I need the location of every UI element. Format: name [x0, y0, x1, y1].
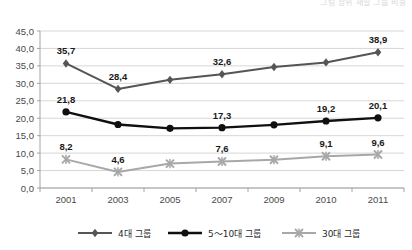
data-point-marker: [115, 85, 122, 93]
data-point-marker: [166, 125, 173, 132]
data-label: 7,6: [215, 143, 228, 154]
data-label: 4,6: [111, 154, 124, 165]
line-chart: 그림 상위 재벌 그룹 비중 0,05,010,015,020,025,030,…: [0, 0, 412, 250]
y-tick-label: 10,0: [16, 148, 35, 159]
data-point-marker: [374, 114, 381, 121]
data-label: 19,2: [317, 103, 336, 114]
chart-legend: 4대 그룹5〜10대 그룹30대 그룹: [78, 228, 360, 238]
y-tick-label: 45,0: [16, 26, 35, 37]
legend-label: 5〜10대 그룹: [208, 229, 261, 239]
data-point-marker: [270, 121, 277, 128]
data-point-marker: [114, 121, 121, 128]
data-point-marker: [271, 63, 278, 71]
data-label: 21,8: [57, 94, 76, 105]
data-label: 20,1: [369, 100, 388, 111]
x-axis-tick-labels: 2001200320052007200920102011: [55, 194, 388, 205]
legend-item-3[interactable]: 30대 그룹: [282, 228, 360, 238]
data-point-marker: [375, 48, 382, 56]
data-point-marker: [63, 59, 70, 67]
chart-canvas: 0,05,010,015,020,025,030,035,040,045,0 2…: [0, 0, 412, 250]
legend-label: 30대 그룹: [322, 229, 360, 239]
data-point-marker: [219, 70, 226, 78]
legend-label: 4대 그룹: [118, 229, 151, 239]
data-label: 17,3: [213, 110, 232, 121]
data-label: 9,6: [371, 137, 384, 148]
data-label: 32,6: [213, 56, 232, 67]
x-tick-label: 2001: [55, 194, 76, 205]
y-tick-label: 35,0: [16, 60, 35, 71]
x-tick-label: 2007: [211, 194, 232, 205]
y-tick-label: 15,0: [16, 130, 35, 141]
y-axis-tick-labels: 0,05,010,015,020,025,030,035,040,045,0: [16, 26, 35, 194]
y-tick-label: 5,0: [21, 165, 34, 176]
legend-marker: [92, 229, 99, 237]
legend-item-2[interactable]: 5〜10대 그룹: [168, 229, 261, 239]
data-label: 8,2: [59, 141, 72, 152]
y-tick-label: 25,0: [16, 95, 35, 106]
y-tick-label: 40,0: [16, 43, 35, 54]
x-tick-label: 2005: [159, 194, 180, 205]
x-tick-label: 2010: [315, 194, 336, 205]
data-point-marker: [323, 58, 330, 66]
legend-item-1[interactable]: 4대 그룹: [78, 229, 151, 239]
data-label: 38,9: [369, 34, 388, 45]
data-label: 35,7: [57, 45, 76, 56]
data-point-marker: [322, 117, 329, 124]
data-point-marker: [167, 76, 174, 84]
x-tick-label: 2011: [368, 194, 388, 205]
data-point-marker: [218, 124, 225, 131]
data-label: 28,4: [109, 71, 128, 82]
x-tick-label: 2009: [263, 194, 284, 205]
legend-marker: [181, 229, 188, 236]
data-point-marker: [62, 108, 69, 115]
data-point-labels: 35,728,432,638,921,817,319,220,18,24,67,…: [57, 34, 388, 165]
x-tick-label: 2003: [107, 194, 128, 205]
data-label: 9,1: [319, 138, 333, 149]
y-tick-label: 0,0: [21, 183, 34, 194]
y-tick-label: 30,0: [16, 78, 35, 89]
y-tick-label: 20,0: [16, 113, 35, 124]
